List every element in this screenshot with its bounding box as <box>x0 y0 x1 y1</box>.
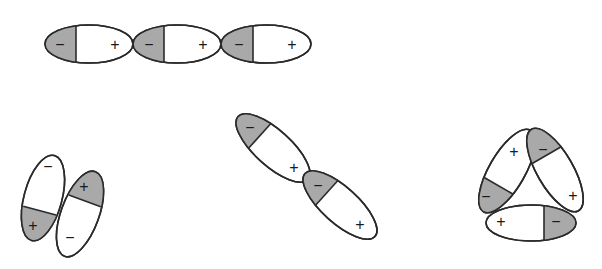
negative-sign: − <box>144 36 153 53</box>
dipole: − + <box>44 24 133 64</box>
positive-sign: + <box>198 36 207 53</box>
head-to-tail-chain: − + − + − + <box>44 24 311 64</box>
positive-sign: + <box>289 159 298 176</box>
negative-sign: − <box>55 36 64 53</box>
positive-sign: + <box>110 36 119 53</box>
dipole: − + <box>132 24 221 64</box>
diagonal-head-to-tail: − + − + <box>225 102 388 251</box>
positive-sign: + <box>287 36 296 53</box>
positive-sign: + <box>355 216 364 233</box>
positive-sign: + <box>496 213 505 230</box>
negative-sign: − <box>65 229 74 246</box>
negative-sign: − <box>538 141 547 158</box>
positive-sign: + <box>28 217 37 234</box>
negative-sign: − <box>313 177 322 194</box>
negative-sign: − <box>43 158 52 175</box>
triangular-cycle: + − − + + − <box>467 119 595 242</box>
negative-sign: − <box>551 213 560 230</box>
dipole: − + <box>220 24 311 64</box>
antiparallel-pair: − + + − <box>12 150 114 263</box>
positive-sign: + <box>79 178 88 195</box>
dipole-diagram: − + − + − + − + <box>0 0 602 269</box>
negative-sign: − <box>245 119 254 136</box>
positive-sign: + <box>509 143 518 160</box>
negative-sign: − <box>481 188 490 205</box>
negative-sign: − <box>234 36 243 53</box>
dipole <box>292 159 388 251</box>
positive-sign: + <box>568 187 577 204</box>
